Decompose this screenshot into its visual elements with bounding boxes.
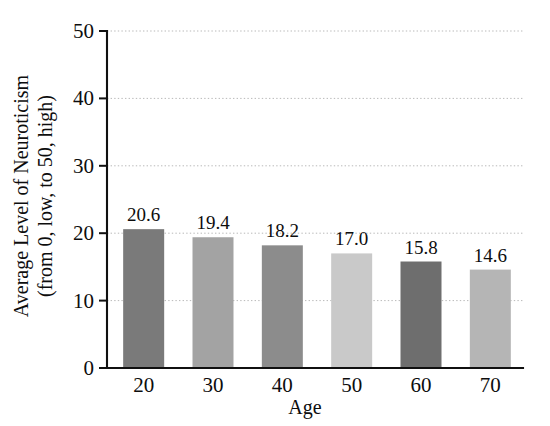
x-axis-tick-label: 50 [341, 373, 362, 397]
y-axis-tick-label: 50 [73, 19, 94, 43]
bar [331, 253, 372, 368]
x-axis-tick-label-group: 203040506070 [133, 373, 501, 397]
x-axis-tick-label: 30 [203, 373, 224, 397]
bar-value-label-group: 20.619.418.217.015.814.6 [127, 204, 507, 265]
bar-group [123, 229, 511, 368]
gridline-group [107, 31, 523, 301]
bar [470, 270, 511, 368]
y-axis-tick-label: 20 [73, 221, 94, 245]
bar-value-label: 20.6 [127, 204, 160, 225]
bar [262, 245, 303, 368]
bar-value-label: 18.2 [266, 220, 299, 241]
x-axis-tick-label: 70 [480, 373, 501, 397]
y-axis-tick-label: 10 [73, 289, 94, 313]
y-axis-tick-label: 0 [84, 356, 95, 380]
x-axis-tick-label: 60 [411, 373, 432, 397]
bar-value-label: 15.8 [404, 237, 437, 258]
chart-canvas: 20.619.418.217.015.814.6 01020304050 203… [0, 0, 550, 426]
bar-value-label: 19.4 [196, 212, 230, 233]
y-axis-tick-label: 30 [73, 154, 94, 178]
x-axis-tick-label: 40 [272, 373, 293, 397]
y-axis-title-line-1: Average Level of Neuroticism [10, 74, 33, 317]
bar [401, 262, 442, 368]
bar-value-label: 17.0 [335, 228, 368, 249]
bar [123, 229, 164, 368]
x-axis-tick-label: 20 [133, 373, 154, 397]
bar-chart-figure: 20.619.418.217.015.814.6 01020304050 203… [0, 0, 550, 426]
y-axis-tick-group: 01020304050 [73, 19, 107, 380]
y-axis-title-line-2: (from 0, low, to 50, high) [34, 95, 57, 297]
bar-value-label: 14.6 [474, 245, 507, 266]
y-axis-tick-label: 40 [73, 86, 94, 110]
bar [193, 237, 234, 368]
x-axis-title: Age [288, 396, 321, 419]
